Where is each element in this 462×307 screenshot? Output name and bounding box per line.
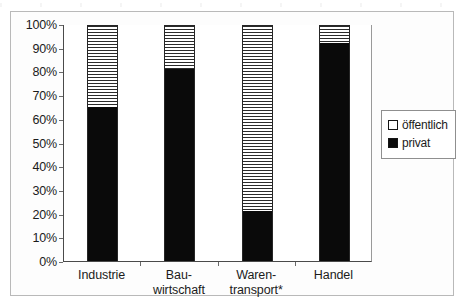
y-axis-tick-label: 50% xyxy=(33,137,57,151)
x-axis-labels: IndustrieBau-wirtschaftWaren-transport*H… xyxy=(63,268,372,304)
y-axis-labels: 0%10%20%30%40%50%60%70%80%90%100% xyxy=(0,25,57,262)
stacked-bar[interactable] xyxy=(242,25,273,261)
x-axis-category-label: Waren-transport* xyxy=(218,268,295,298)
y-axis-tick-label: 80% xyxy=(33,65,57,79)
x-axis-category-label: Industrie xyxy=(63,268,140,283)
x-axis-tick-marks xyxy=(63,262,372,267)
chart-figure: 0%10%20%30%40%50%60%70%80%90%100% Indust… xyxy=(0,0,462,307)
hatched-square-icon xyxy=(388,120,398,130)
bar-group xyxy=(164,25,195,261)
x-axis-label-line: Industrie xyxy=(63,268,140,283)
bar-group xyxy=(242,25,273,261)
x-axis-label-line: Waren- xyxy=(218,268,295,283)
y-axis-tick-label: 90% xyxy=(33,42,57,56)
y-axis-tick-label: 0% xyxy=(39,255,57,269)
legend-item[interactable]: öffentlich xyxy=(388,116,448,134)
x-axis-label-line: Bau- xyxy=(140,268,217,283)
x-axis-label-line: transport* xyxy=(218,283,295,298)
x-axis-tick-mark xyxy=(218,262,219,266)
bar-group xyxy=(319,25,350,261)
bar-segment-privat[interactable] xyxy=(243,211,272,261)
black-square-icon xyxy=(388,138,398,148)
stacked-bar[interactable] xyxy=(164,25,195,261)
legend-item-label: öffentlich xyxy=(402,118,448,132)
bar-segment-privat[interactable] xyxy=(320,43,349,261)
y-axis-tick-label: 10% xyxy=(33,231,57,245)
bar-group xyxy=(87,25,118,261)
bar-segment-privat[interactable] xyxy=(165,69,194,261)
x-axis-tick-mark xyxy=(295,262,296,266)
plot-area xyxy=(63,25,372,262)
bar-segment-oeffentlich[interactable] xyxy=(165,26,194,71)
x-axis-category-label: Handel xyxy=(295,268,372,283)
y-axis-tick-label: 70% xyxy=(33,89,57,103)
bar-segment-privat[interactable] xyxy=(88,107,117,261)
y-axis-tick-label: 100% xyxy=(26,18,57,32)
bar-segment-oeffentlich[interactable] xyxy=(243,26,272,213)
y-axis-tick-label: 40% xyxy=(33,160,57,174)
x-axis-label-line: wirtschaft xyxy=(140,283,217,298)
stacked-bar[interactable] xyxy=(319,25,350,261)
bar-segment-oeffentlich[interactable] xyxy=(88,26,117,109)
y-axis-tick-label: 60% xyxy=(33,113,57,127)
chart-legend: öffentlichprivat xyxy=(381,110,456,159)
legend-item-label: privat xyxy=(402,136,430,150)
x-axis-category-label: Bau-wirtschaft xyxy=(140,268,217,298)
legend-item[interactable]: privat xyxy=(388,134,448,152)
x-axis-label-line: Handel xyxy=(295,268,372,283)
y-axis-tick-label: 30% xyxy=(33,184,57,198)
scan-artifact xyxy=(0,3,462,7)
y-axis-tick-label: 20% xyxy=(33,208,57,222)
stacked-bar[interactable] xyxy=(87,25,118,261)
x-axis-tick-mark xyxy=(140,262,141,266)
